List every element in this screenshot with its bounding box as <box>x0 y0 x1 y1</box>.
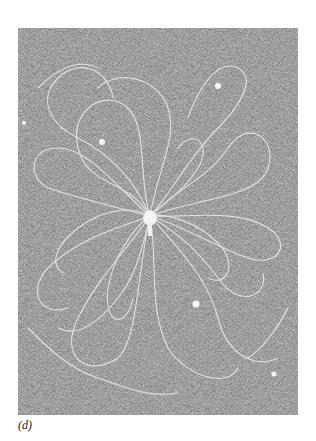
figure-label: (d) <box>18 418 32 433</box>
micrograph-image <box>18 28 298 415</box>
